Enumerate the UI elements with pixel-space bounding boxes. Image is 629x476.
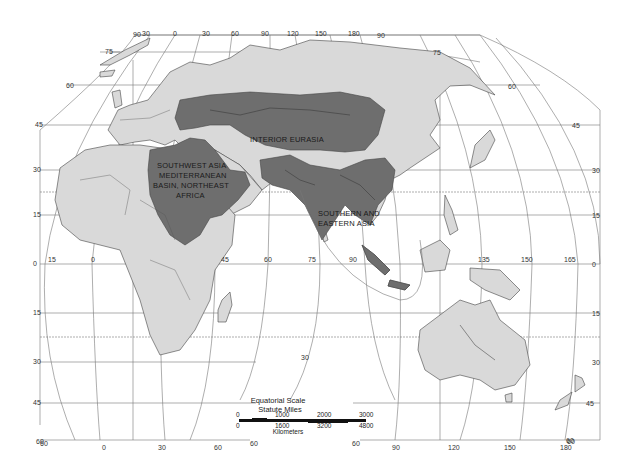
svg-text:150: 150 — [315, 30, 327, 37]
new-guinea — [470, 268, 520, 300]
svg-text:45: 45 — [221, 256, 229, 263]
svg-text:4800: 4800 — [359, 422, 374, 429]
svg-text:45: 45 — [572, 122, 580, 129]
world-map: INTERIOR EURASIA SOUTHWEST ASIA MEDITERR… — [0, 0, 629, 476]
svg-text:15: 15 — [33, 211, 41, 218]
svg-text:0: 0 — [592, 261, 596, 268]
svg-text:150: 150 — [504, 444, 516, 451]
svg-text:90: 90 — [133, 31, 141, 38]
scale-title: Equatorial Scale — [251, 396, 306, 405]
svg-text:120: 120 — [448, 444, 460, 451]
svg-text:0: 0 — [33, 260, 37, 267]
svg-text:60: 60 — [231, 30, 239, 37]
label-southern-eastern-asia-1: SOUTHERN AND — [318, 209, 380, 218]
svg-text:75: 75 — [433, 49, 441, 56]
svg-text:0: 0 — [102, 444, 106, 451]
label-southwest-asia-4: AFRICA — [176, 191, 205, 200]
svg-text:2000: 2000 — [317, 411, 332, 418]
svg-text:0: 0 — [236, 422, 240, 429]
svg-text:180: 180 — [348, 30, 360, 37]
svg-text:1000: 1000 — [275, 411, 290, 418]
madagascar — [218, 292, 232, 322]
japan — [470, 130, 495, 168]
svg-text:60: 60 — [40, 440, 48, 447]
label-southwest-asia-2: MEDITERRANEAN — [159, 171, 227, 180]
svg-text:180: 180 — [560, 444, 572, 451]
svg-text:60: 60 — [264, 256, 272, 263]
svg-text:30: 30 — [592, 359, 600, 366]
svg-text:60: 60 — [214, 444, 222, 451]
tasmania — [505, 393, 512, 402]
svg-text:60: 60 — [508, 83, 516, 90]
svg-text:15: 15 — [592, 310, 600, 317]
svg-text:60: 60 — [352, 440, 360, 447]
label-interior-eurasia: INTERIOR EURASIA — [250, 135, 324, 144]
svg-text:75: 75 — [105, 48, 113, 55]
svg-text:30: 30 — [142, 30, 150, 37]
svg-text:75: 75 — [308, 256, 316, 263]
svg-text:30: 30 — [592, 167, 600, 174]
svg-text:3000: 3000 — [359, 411, 374, 418]
svg-text:15: 15 — [592, 212, 600, 219]
svg-text:15: 15 — [48, 256, 56, 263]
svg-text:90: 90 — [377, 32, 385, 39]
svg-text:3200: 3200 — [317, 422, 332, 429]
svg-text:45: 45 — [586, 400, 594, 407]
svg-text:60: 60 — [66, 82, 74, 89]
svg-text:135: 135 — [478, 256, 490, 263]
svg-text:0: 0 — [173, 30, 177, 37]
svg-text:30: 30 — [202, 30, 210, 37]
scale-km-label: Kilometers — [273, 428, 304, 435]
svg-text:45: 45 — [35, 121, 43, 128]
svg-text:15: 15 — [33, 309, 41, 316]
new-zealand-north — [575, 375, 585, 392]
svg-text:60: 60 — [566, 437, 574, 444]
svg-text:0: 0 — [236, 411, 240, 418]
iceland — [100, 70, 115, 77]
region-sumatra-shade — [362, 245, 390, 275]
svg-text:90: 90 — [261, 30, 269, 37]
svg-text:150: 150 — [521, 256, 533, 263]
svg-text:0: 0 — [91, 256, 95, 263]
svg-text:165: 165 — [564, 256, 576, 263]
svg-text:30: 30 — [158, 444, 166, 451]
svg-text:30: 30 — [33, 166, 41, 173]
svg-text:45: 45 — [33, 399, 41, 406]
label-southwest-asia-3: BASIN, NORTHEAST — [153, 181, 229, 190]
great-britain — [112, 90, 122, 108]
svg-text:30: 30 — [301, 354, 309, 361]
svg-text:90: 90 — [392, 444, 400, 451]
svg-text:90: 90 — [349, 256, 357, 263]
svg-text:120: 120 — [287, 30, 299, 37]
scale-bar: Equatorial Scale Statute Miles 0 1000 20… — [236, 396, 374, 435]
svg-text:60: 60 — [250, 440, 258, 447]
label-southern-eastern-asia-2: EASTERN ASIA — [318, 219, 375, 228]
australia — [418, 300, 530, 390]
region-java-shade — [388, 280, 410, 290]
label-southwest-asia-1: SOUTHWEST ASIA — [157, 161, 226, 170]
svg-text:30: 30 — [33, 358, 41, 365]
borneo — [420, 240, 450, 272]
